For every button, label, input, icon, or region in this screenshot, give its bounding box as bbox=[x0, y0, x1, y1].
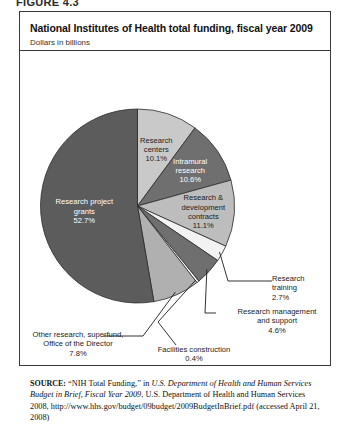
pie-callout-label: Research managementand support4.6% bbox=[238, 307, 318, 335]
pie-chart-svg: Researchcenters10.1%Intramuralresearch10… bbox=[0, 0, 341, 436]
source-prefix: SOURCE: bbox=[30, 379, 66, 388]
pie-callout-label: Other research, superfund,Office of the … bbox=[33, 330, 124, 358]
callout-leader-line bbox=[220, 252, 273, 281]
callout-leader-line bbox=[205, 270, 216, 314]
pie-callout-label: Researchtraining2.7% bbox=[272, 274, 305, 302]
pie-chart: Researchcenters10.1%Intramuralresearch10… bbox=[0, 0, 341, 436]
pie-callout-label: Facilities construction0.4% bbox=[158, 345, 231, 363]
source-text-1: “NIH Total Funding,” in bbox=[68, 379, 151, 388]
source-note: SOURCE: “NIH Total Funding,” in U.S. Dep… bbox=[30, 378, 322, 424]
